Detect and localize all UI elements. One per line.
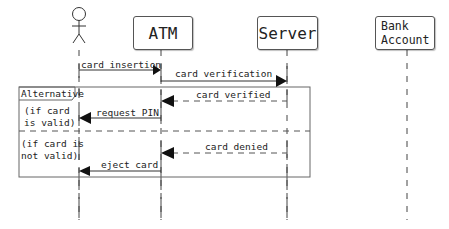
participant-server: Server bbox=[257, 16, 318, 50]
label-card-verification: card verification bbox=[175, 68, 272, 79]
actor-icon bbox=[72, 8, 86, 44]
label-eject-card: eject card bbox=[101, 159, 158, 170]
participant-label-bank-line1: Bank bbox=[381, 19, 409, 33]
participant-label-bank-line2: Account bbox=[381, 33, 429, 47]
label-card-insertion: card insertion bbox=[81, 59, 161, 70]
label-card-verified: card verified bbox=[196, 89, 270, 100]
participant-label-server: Server bbox=[259, 24, 317, 43]
participant-label-atm: ATM bbox=[149, 24, 178, 43]
participant-atm: ATM bbox=[133, 16, 193, 50]
label-request-pin: request PIN bbox=[96, 107, 159, 118]
participant-bank-account: Bank Account bbox=[375, 16, 435, 50]
alt-fragment-operator: Alternative bbox=[21, 88, 84, 99]
label-card-denied: card denied bbox=[205, 141, 268, 152]
guard-valid: (if card is valid) bbox=[24, 105, 75, 129]
guard-not-valid: (if card is not valid) bbox=[21, 138, 84, 162]
